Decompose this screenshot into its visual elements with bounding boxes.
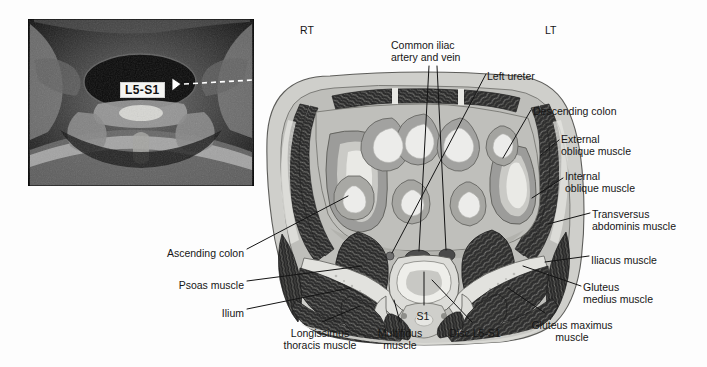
label-ascending-colon: Ascending colon	[0, 247, 244, 259]
label-descending-colon: Descending colon	[533, 105, 616, 117]
right-marker: RT	[300, 24, 314, 36]
label-s1: S1	[353, 310, 493, 322]
left-marker: LT	[545, 24, 556, 36]
label-disc-l5-s1: Disc L5-S1	[405, 327, 545, 339]
mri-overlay-label: L5-S1	[120, 82, 165, 98]
label-external-oblique-muscle: External oblique muscle	[561, 133, 631, 158]
label-psoas-muscle: Psoas muscle	[0, 279, 244, 291]
label-iliacus-muscle: Iliacus muscle	[591, 254, 657, 266]
label-internal-oblique-muscle: Internal oblique muscle	[565, 170, 635, 195]
mri-inset-overlay: L5-S1	[28, 19, 254, 186]
label-gluteus-medius-muscle: Gluteus medius muscle	[583, 281, 653, 306]
label-ilium: Ilium	[0, 307, 244, 319]
label-transversus-abdominis-muscle: Transversus abdominis muscle	[592, 208, 676, 233]
label-common-iliac-artery-and-vein: Common iliac artery and vein	[391, 39, 460, 64]
label-left-ureter: Left ureter	[487, 70, 535, 82]
